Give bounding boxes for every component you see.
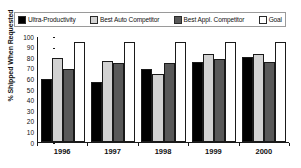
legend-label-best-appl-competitor: Best Appl. Competitor bbox=[184, 16, 245, 24]
legend-swatch-best-appl-competitor bbox=[174, 16, 182, 24]
bar-chart-figure: Ultra-Productivity Best Auto Competitor … bbox=[0, 0, 301, 168]
bar-group-1996 bbox=[38, 37, 88, 142]
bar[interactable] bbox=[175, 42, 186, 142]
bar[interactable] bbox=[102, 61, 113, 142]
x-axis-tick-mark bbox=[138, 143, 139, 146]
legend-label-goal: Goal bbox=[269, 16, 282, 24]
y-axis-tick-label: 10 bbox=[27, 129, 34, 136]
bar[interactable] bbox=[52, 58, 63, 142]
legend-item-goal[interactable]: Goal bbox=[259, 16, 282, 24]
x-axis-tick-labels: 19961997199819992000 bbox=[37, 147, 289, 156]
legend-item-best-appl-competitor[interactable]: Best Appl. Competitor bbox=[174, 16, 245, 24]
bar[interactable] bbox=[225, 42, 236, 142]
bar[interactable] bbox=[164, 63, 175, 142]
bar[interactable] bbox=[141, 69, 152, 143]
bar[interactable] bbox=[74, 42, 85, 142]
y-axis-tick-label: 20 bbox=[27, 118, 34, 125]
bar-group-1999 bbox=[189, 37, 239, 142]
bar[interactable] bbox=[91, 82, 102, 142]
x-axis-tick-mark bbox=[289, 143, 290, 146]
bar[interactable] bbox=[264, 62, 275, 142]
y-axis-tick-label: 50 bbox=[27, 87, 34, 94]
y-axis-tick-label: 0 bbox=[30, 140, 34, 147]
x-axis-tick-label-1997: 1997 bbox=[87, 147, 137, 156]
legend-swatch-ultra-productivity bbox=[18, 16, 26, 24]
y-axis-tick-labels: 1009080706050403020100 bbox=[18, 33, 35, 147]
bar[interactable] bbox=[192, 62, 203, 142]
y-axis-tick-label: 60 bbox=[27, 76, 34, 83]
x-axis-tick-mark bbox=[37, 143, 38, 146]
y-axis-tick-label: 100 bbox=[23, 34, 34, 41]
x-axis-tick-label-1999: 1999 bbox=[188, 147, 238, 156]
x-axis-tick-mark bbox=[87, 143, 88, 146]
bar-groups-container bbox=[38, 37, 289, 142]
y-axis-title: % Shipped When Requested bbox=[7, 1, 14, 111]
legend-label-ultra-productivity: Ultra-Productivity bbox=[28, 16, 76, 24]
y-axis-tick-label: 30 bbox=[27, 108, 34, 115]
legend-swatch-best-auto-competitor bbox=[90, 16, 98, 24]
legend-label-best-auto-competitor: Best Auto Competitor bbox=[100, 16, 159, 24]
bar[interactable] bbox=[242, 57, 253, 142]
bar[interactable] bbox=[253, 54, 264, 142]
bar[interactable] bbox=[275, 42, 286, 142]
bar[interactable] bbox=[152, 74, 163, 142]
x-axis-tick-label-1998: 1998 bbox=[138, 147, 188, 156]
bar-group-1998 bbox=[138, 37, 188, 142]
legend-item-best-auto-competitor[interactable]: Best Auto Competitor bbox=[90, 16, 159, 24]
y-axis-tick-label: 80 bbox=[27, 55, 34, 62]
bar[interactable] bbox=[113, 63, 124, 142]
bar-group-2000 bbox=[239, 37, 289, 142]
y-axis-tick-label: 70 bbox=[27, 65, 34, 72]
chart-legend: Ultra-Productivity Best Auto Competitor … bbox=[14, 12, 286, 27]
bar[interactable] bbox=[41, 79, 52, 142]
x-axis-tick-mark bbox=[239, 143, 240, 146]
bar[interactable] bbox=[124, 42, 135, 142]
legend-swatch-goal bbox=[259, 16, 267, 24]
x-axis-tick-label-1996: 1996 bbox=[37, 147, 87, 156]
bar[interactable] bbox=[203, 54, 214, 142]
y-axis-tick-label: 40 bbox=[27, 97, 34, 104]
bar-group-1997 bbox=[88, 37, 138, 142]
plot-area bbox=[37, 37, 289, 143]
bar[interactable] bbox=[214, 59, 225, 142]
x-axis-tick-mark bbox=[188, 143, 189, 146]
legend-item-ultra-productivity[interactable]: Ultra-Productivity bbox=[18, 16, 76, 24]
y-axis-tick-label: 90 bbox=[27, 44, 34, 51]
x-axis-tick-label-2000: 2000 bbox=[239, 147, 289, 156]
bar[interactable] bbox=[63, 69, 74, 143]
